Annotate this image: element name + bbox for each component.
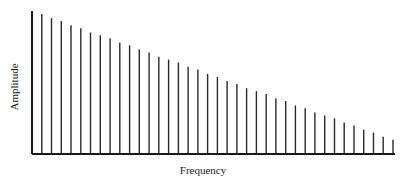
spectrum-lines [32,11,393,154]
y-axis-label: Amplitude [8,63,20,110]
line-spectrum-chart: Frequency Amplitude [0,0,404,186]
x-axis-label: Frequency [180,164,227,176]
